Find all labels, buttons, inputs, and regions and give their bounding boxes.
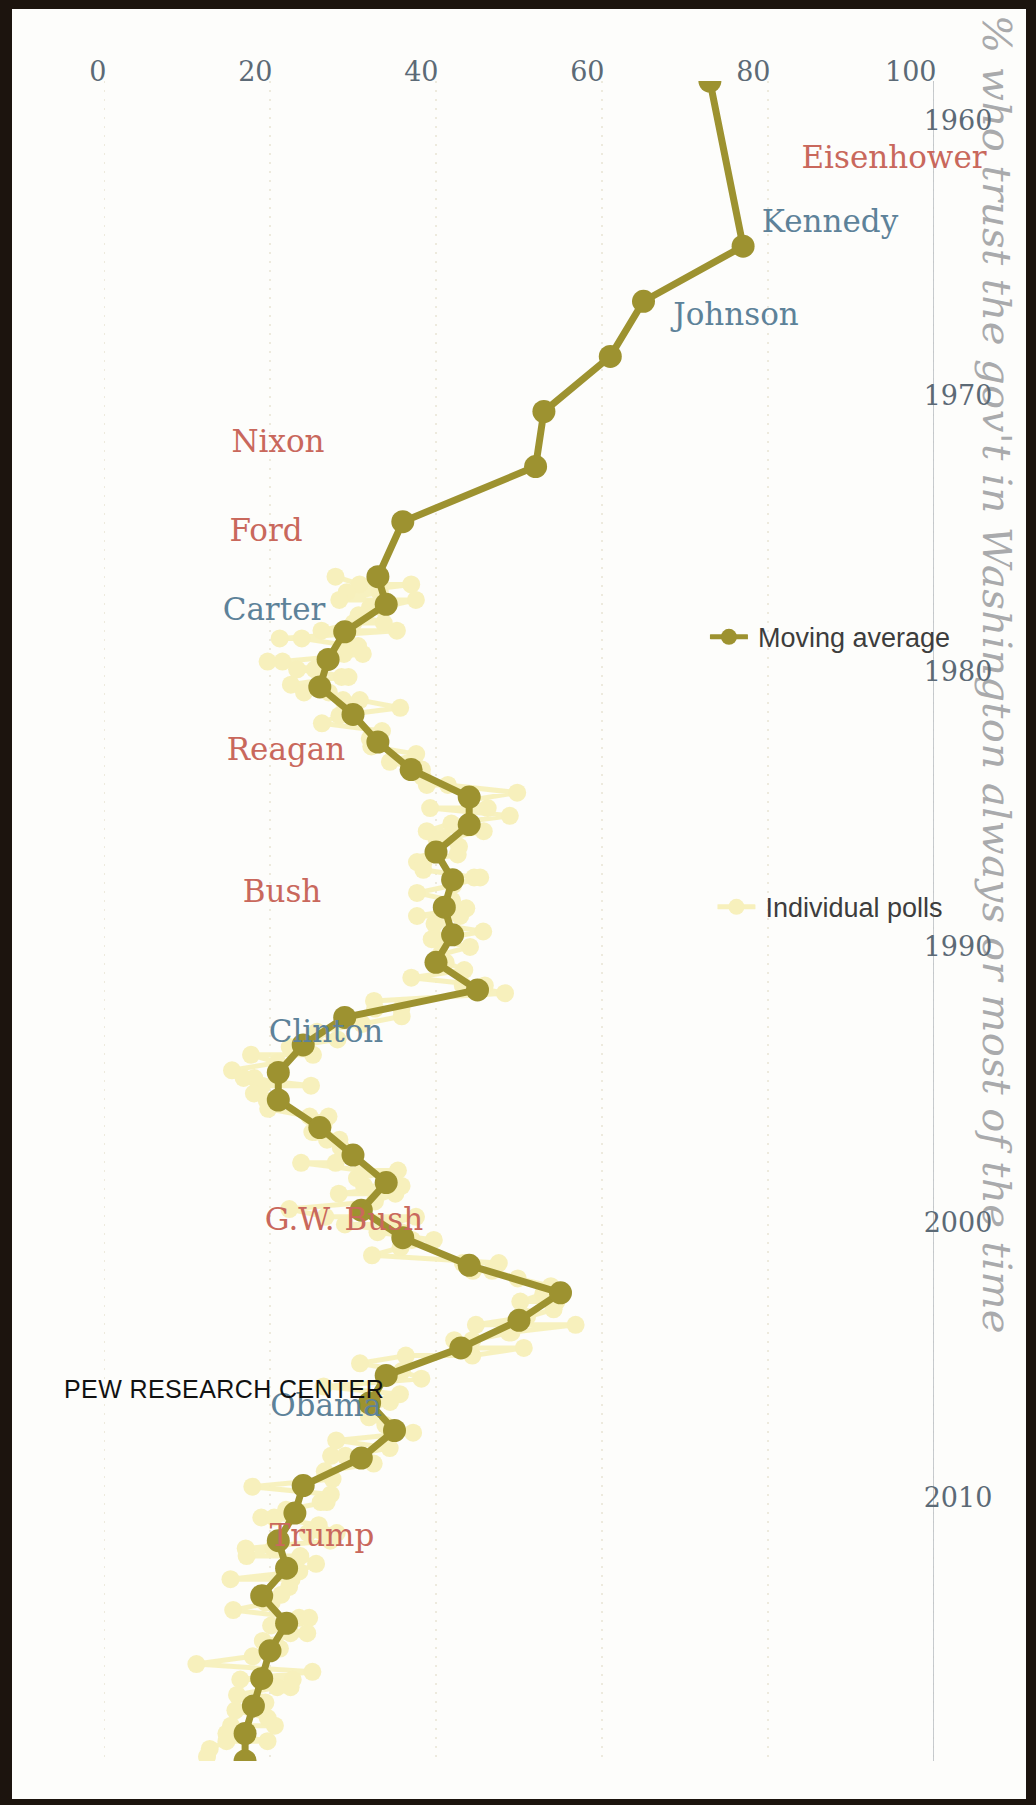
individual-poll-point — [479, 799, 497, 817]
legend-item-moving-average[interactable]: Moving average — [710, 623, 950, 655]
individual-poll-point — [259, 1732, 277, 1750]
individual-poll-point — [224, 1601, 242, 1619]
individual-poll-point — [327, 1431, 345, 1449]
individual-poll-point — [271, 629, 289, 647]
moving-average-point — [400, 758, 423, 781]
individual-poll-point — [298, 1624, 316, 1642]
legend-dot-icon — [717, 894, 755, 925]
moving-average-point — [449, 1336, 472, 1359]
legend-item-individual-polls[interactable]: Individual polls — [717, 893, 942, 925]
moving-average-point — [366, 731, 389, 754]
president-label-g-w-bush: G.W. Bush — [265, 1201, 423, 1237]
brand-label: PEW RESEARCH CENTER — [64, 1375, 384, 1404]
moving-average-point — [524, 455, 547, 478]
individual-poll-point — [322, 1447, 340, 1465]
individual-poll-point — [421, 799, 439, 817]
individual-poll-point — [243, 1478, 261, 1496]
moving-average-point — [292, 1474, 315, 1497]
rotated-figure-wrapper: % who trust the gov't in Washington alwa… — [12, 9, 1026, 1799]
moving-average-point — [441, 868, 464, 891]
moving-average-point — [342, 1144, 365, 1167]
x-axis-tick-label: 1990 — [924, 931, 993, 962]
legend-label: Moving average — [758, 623, 950, 653]
individual-poll-point — [354, 645, 372, 663]
moving-average-point — [342, 703, 365, 726]
individual-poll-point — [408, 907, 426, 925]
moving-average-point — [391, 510, 414, 533]
moving-average-point — [732, 235, 755, 258]
individual-poll-point — [259, 653, 277, 671]
x-axis-tick-label: 2010 — [924, 1482, 993, 1513]
y-axis-tick-label: 60 — [570, 56, 604, 87]
moving-average-point — [259, 1639, 282, 1662]
moving-average-point — [458, 786, 481, 809]
y-axis-tick-label: 20 — [238, 56, 272, 87]
individual-poll-point — [318, 1493, 336, 1511]
individual-poll-point — [567, 1316, 585, 1334]
individual-poll-point — [293, 629, 311, 647]
individual-poll-point — [238, 1547, 256, 1565]
individual-poll-point — [222, 1570, 240, 1588]
individual-poll-point — [508, 784, 526, 802]
moving-average-point — [375, 593, 398, 616]
moving-average-point — [441, 923, 464, 946]
individual-poll-point — [423, 930, 441, 948]
individual-poll-point — [407, 591, 425, 609]
individual-poll-point — [467, 1316, 485, 1334]
president-label-carter: Carter — [223, 591, 326, 627]
individual-poll-point — [363, 1246, 381, 1264]
individual-poll-point — [412, 1370, 430, 1388]
individual-poll-point — [402, 969, 420, 987]
individual-poll-point — [226, 1701, 244, 1719]
moving-average-point — [508, 1309, 531, 1332]
moving-average-point — [308, 675, 331, 698]
president-label-eisenhower: Eisenhower — [801, 139, 986, 175]
individual-poll-point — [402, 575, 420, 593]
x-axis-tick-label: 1970 — [924, 380, 993, 411]
individual-poll-point — [471, 869, 489, 887]
president-label-trump: Trump — [270, 1517, 375, 1553]
individual-poll-point — [266, 1717, 284, 1735]
moving-average-point — [308, 1116, 331, 1139]
moving-average-point — [234, 1722, 257, 1745]
president-label-clinton: Clinton — [269, 1013, 384, 1049]
president-label-reagan: Reagan — [227, 731, 345, 767]
moving-average-point — [350, 1447, 373, 1470]
moving-average-point — [317, 648, 340, 671]
moving-average-point — [698, 81, 721, 93]
individual-poll-point — [388, 622, 406, 640]
individual-poll-point — [355, 1177, 373, 1195]
y-axis-tick-label: 40 — [404, 56, 438, 87]
y-axis-tick-label: 100 — [885, 56, 937, 87]
individual-poll-point — [474, 923, 492, 941]
moving-average-layer — [234, 81, 755, 1761]
moving-average-point — [375, 1171, 398, 1194]
individual-poll-point — [292, 1154, 310, 1172]
moving-average-point — [425, 951, 448, 974]
individual-poll-point — [351, 1354, 369, 1372]
individual-poll-point — [496, 984, 514, 1002]
moving-average-point — [366, 565, 389, 588]
individual-poll-point — [307, 1555, 325, 1573]
figure-paper: % who trust the gov't in Washington alwa… — [12, 9, 1026, 1799]
individual-poll-point — [501, 807, 519, 825]
individual-poll-point — [235, 1069, 253, 1087]
president-label-johnson: Johnson — [673, 296, 799, 332]
individual-poll-point — [187, 1655, 205, 1673]
individual-poll-point — [288, 660, 306, 678]
individual-poll-point — [397, 1347, 415, 1365]
moving-average-point — [333, 620, 356, 643]
individual-poll-point — [404, 1424, 422, 1442]
moving-average-point — [383, 1419, 406, 1442]
individual-poll-point — [461, 938, 479, 956]
legend-label: Individual polls — [765, 893, 942, 923]
moving-average-point — [275, 1557, 298, 1580]
moving-average-point — [267, 1061, 290, 1084]
president-label-ford: Ford — [229, 512, 302, 548]
moving-average-point — [599, 345, 622, 368]
individual-poll-point — [449, 845, 467, 863]
individual-poll-point — [218, 1732, 236, 1750]
legend-line-dot-icon — [710, 624, 748, 655]
chart-title: % who trust the gov't in Washington alwa… — [974, 15, 1020, 1515]
y-axis-tick-label: 80 — [736, 56, 770, 87]
